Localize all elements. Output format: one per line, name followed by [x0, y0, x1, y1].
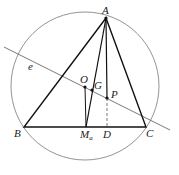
median-a-ma	[86, 18, 106, 127]
label-p: P	[110, 88, 118, 100]
perpendicular-o-ma	[85, 87, 86, 127]
label-a: A	[101, 4, 109, 16]
label-c: C	[146, 127, 154, 139]
label-g: G	[94, 79, 102, 91]
point-o	[83, 85, 86, 88]
point-a	[104, 16, 107, 19]
label-ma: Ma	[79, 128, 93, 142]
euler-line-diagram: A B C O G P D Ma e	[0, 0, 179, 175]
label-b: B	[14, 127, 21, 139]
altitude-a-p	[106, 18, 107, 98]
label-e: e	[28, 60, 33, 72]
label-o: O	[80, 73, 88, 85]
point-p	[105, 96, 108, 99]
label-d: D	[102, 128, 111, 140]
